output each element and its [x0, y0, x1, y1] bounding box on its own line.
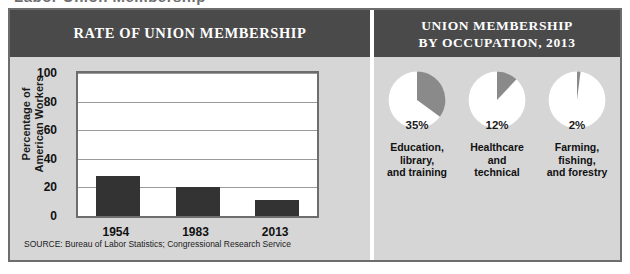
- pie-percent-label-3: 2%: [548, 119, 606, 131]
- right-header-line2: BY OCCUPATION, 2013: [418, 34, 575, 51]
- infographic-frame: RATE OF UNION MEMBERSHIP UNION MEMBERSHI…: [8, 8, 622, 262]
- pie-chart-group-2: 12%Healthcareandtechnical: [456, 57, 538, 179]
- left-header-title: RATE OF UNION MEMBERSHIP: [73, 25, 306, 42]
- pie-caption-line: technical: [456, 166, 538, 179]
- pie-caption-line: Education,: [376, 141, 458, 154]
- pie-chart-group-3: 2%Farming,fishing,and forestry: [536, 57, 618, 179]
- pie-chart-group-1: 35%Education,library,and training: [376, 57, 458, 179]
- y-tick-label: 100: [17, 66, 57, 80]
- gridline: [78, 102, 317, 103]
- artifact-text: Labor Union Membership: [14, 0, 206, 5]
- pie-caption-line: and: [456, 154, 538, 167]
- y-tick-label: 20: [17, 180, 57, 194]
- y-tick-label: 60: [17, 123, 57, 137]
- right-panel-header: UNION MEMBERSHIP BY OCCUPATION, 2013: [374, 10, 620, 57]
- bar-chart-panel: Percentage of American Workers 020406080…: [10, 57, 370, 260]
- top-cropped-text-artifact: Labor Union Membership: [0, 0, 630, 8]
- y-tick-label: 40: [17, 152, 57, 166]
- pie-caption-line: library,: [376, 154, 458, 167]
- pie-chart-2: 12%: [468, 71, 526, 129]
- pie-percent-label-2: 12%: [468, 119, 526, 131]
- y-tick-label: 0: [17, 209, 57, 223]
- right-header-line1: UNION MEMBERSHIP: [421, 18, 573, 33]
- union-membership-infographic: Labor Union Membership RATE OF UNION MEM…: [0, 0, 630, 274]
- y-tick-label: 80: [17, 95, 57, 109]
- pie-chart-1: 35%: [388, 71, 446, 129]
- pie-caption-line: fishing,: [536, 154, 618, 167]
- bar-1954: [96, 176, 140, 216]
- pie-chart-3: 2%: [548, 71, 606, 129]
- gridline: [78, 159, 317, 160]
- gridline: [78, 130, 317, 131]
- pie-caption-line: Healthcare: [456, 141, 538, 154]
- bar-1983: [176, 187, 220, 216]
- x-tick-label-1983: 1983: [161, 225, 231, 239]
- pie-caption-3: Farming,fishing,and forestry: [536, 141, 618, 179]
- left-panel-header: RATE OF UNION MEMBERSHIP: [10, 10, 370, 57]
- pie-caption-line: and forestry: [536, 166, 618, 179]
- pie-caption-1: Education,library,and training: [376, 141, 458, 179]
- gridline: [78, 73, 317, 74]
- pie-caption-line: Farming,: [536, 141, 618, 154]
- pie-caption-line: and training: [376, 166, 458, 179]
- pie-percent-label-1: 35%: [388, 119, 446, 131]
- pie-caption-2: Healthcareandtechnical: [456, 141, 538, 179]
- bar-chart-plot-area: [76, 71, 319, 218]
- source-note: SOURCE: Bureau of Labor Statistics; Cong…: [24, 239, 291, 249]
- bar-2013: [255, 200, 299, 216]
- x-tick-label-2013: 2013: [240, 225, 310, 239]
- pie-chart-panel: 35%Education,library,and training12%Heal…: [374, 57, 620, 260]
- x-tick-label-1954: 1954: [81, 225, 151, 239]
